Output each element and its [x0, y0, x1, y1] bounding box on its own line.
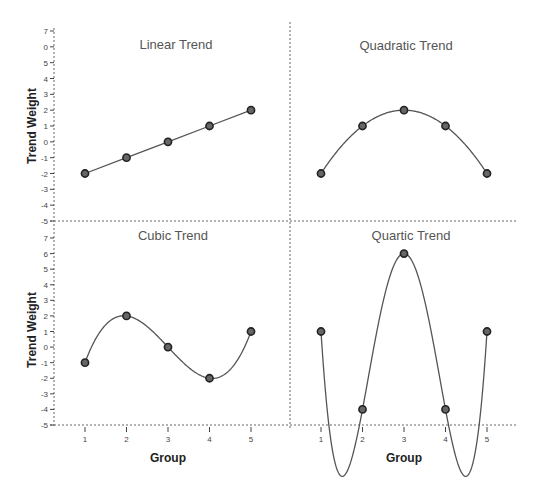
y-tick-label: 6 — [44, 250, 49, 259]
x-tick-label: 2 — [124, 435, 129, 444]
x-tick-label: 5 — [249, 435, 254, 444]
data-point-marker — [164, 343, 171, 350]
data-point-marker — [359, 122, 366, 129]
x-tick-label: 2 — [360, 435, 365, 444]
x-tick-label: 3 — [402, 435, 407, 444]
y-tick-label: 5 — [44, 59, 49, 68]
trend-curves — [85, 110, 487, 476]
data-point-marker — [317, 328, 324, 335]
y-tick-label: 0 — [44, 138, 49, 147]
data-point-marker — [164, 138, 171, 145]
data-point-marker — [206, 122, 213, 129]
y-tick-label: 4 — [44, 281, 49, 290]
trend-curve — [321, 110, 487, 173]
data-point-marker — [206, 375, 213, 382]
x-tick-label: 4 — [443, 435, 448, 444]
y-tick-label: 2 — [44, 106, 49, 115]
y-tick-label: 3 — [44, 90, 49, 99]
y-axis-title-bottom: Trend Weight — [25, 292, 39, 368]
y-axis-title-top: Trend Weight — [25, 88, 39, 164]
y-tick-label: -1 — [41, 359, 49, 368]
y-tick-label: -2 — [41, 374, 49, 383]
x-tick-label: 5 — [485, 435, 490, 444]
quartic-trend-title: Quartic Trend — [372, 228, 451, 243]
y-tick-label: -3 — [41, 390, 49, 399]
data-point-marker — [400, 250, 407, 257]
data-point-marker — [123, 154, 130, 161]
data-point-marker — [81, 170, 88, 177]
y-tick-label: -1 — [41, 154, 49, 163]
y-tick-label: -2 — [41, 170, 49, 179]
data-point-marker — [247, 328, 254, 335]
quadratic-trend-title: Quadratic Trend — [359, 38, 452, 53]
y-tick-label: 1 — [44, 122, 49, 131]
data-point-marker — [317, 170, 324, 177]
data-point-marker — [400, 107, 407, 114]
data-point-marker — [483, 328, 490, 335]
y-tick-label: 7 — [44, 234, 49, 243]
cubic-trend-title: Cubic Trend — [138, 228, 208, 243]
trend-chart-figure: Linear Trend Quadratic Trend Cubic Trend… — [0, 0, 538, 491]
y-tick-label: 1 — [44, 328, 49, 337]
y-tick-label: 7 — [44, 27, 49, 36]
linear-trend-title: Linear Trend — [140, 37, 213, 52]
x-tick-label: 3 — [166, 435, 171, 444]
y-tick-label: -3 — [41, 185, 49, 194]
panel-frame — [50, 22, 518, 428]
data-point-marker — [442, 122, 449, 129]
x-tick-label: 4 — [207, 435, 212, 444]
x-axis-title-left: Group — [150, 451, 186, 465]
y-tick-label: 0 — [44, 43, 49, 52]
y-tick-label: 3 — [44, 296, 49, 305]
data-point-marker — [359, 406, 366, 413]
y-tick-label: 0 — [44, 343, 49, 352]
data-point-marker — [247, 107, 254, 114]
y-tick-label: -4 — [41, 405, 49, 414]
y-tick-label: 2 — [44, 312, 49, 321]
chart-canvas: Linear Trend Quadratic Trend Cubic Trend… — [0, 0, 538, 491]
y-tick-label: 5 — [44, 265, 49, 274]
data-point-marker — [442, 406, 449, 413]
y-tick-label: -4 — [41, 201, 49, 210]
y-tick-label: -5 — [41, 217, 49, 226]
y-tick-label: 4 — [44, 75, 49, 84]
data-points — [81, 107, 490, 413]
data-point-marker — [81, 359, 88, 366]
y-tick-label: -5 — [41, 421, 49, 430]
data-point-marker — [483, 170, 490, 177]
data-point-marker — [123, 312, 130, 319]
x-tick-label: 1 — [319, 435, 324, 444]
x-axis-title-right: Group — [386, 451, 422, 465]
x-tick-label: 1 — [83, 435, 88, 444]
